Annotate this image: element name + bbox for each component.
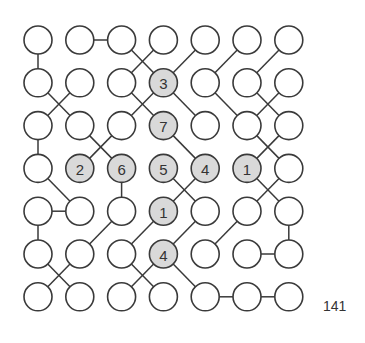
clue-number: 1 (243, 161, 251, 178)
grid-node[interactable] (24, 240, 52, 268)
node-circle[interactable] (24, 240, 52, 268)
grid-node[interactable] (233, 112, 261, 140)
grid-node[interactable] (233, 240, 261, 268)
grid-node[interactable] (275, 26, 303, 54)
node-circle[interactable] (233, 112, 261, 140)
clue-number: 1 (159, 204, 167, 221)
node-circle[interactable] (24, 154, 52, 182)
node-circle[interactable] (24, 69, 52, 97)
puzzle-number: 141 (323, 298, 346, 314)
node-circle[interactable] (108, 69, 136, 97)
clue-node[interactable]: 1 (233, 154, 261, 182)
node-circle[interactable] (191, 197, 219, 225)
node-circle[interactable] (191, 112, 219, 140)
grid-node[interactable] (66, 69, 94, 97)
grid-node[interactable] (275, 154, 303, 182)
grid-node[interactable] (191, 69, 219, 97)
grid-node[interactable] (24, 154, 52, 182)
grid-node[interactable] (66, 26, 94, 54)
grid-node[interactable] (108, 283, 136, 311)
clue-number: 7 (159, 118, 167, 135)
clue-node[interactable]: 3 (149, 69, 177, 97)
node-circle[interactable] (233, 240, 261, 268)
grid-node[interactable] (233, 197, 261, 225)
grid-node[interactable] (275, 197, 303, 225)
node-circle[interactable] (149, 283, 177, 311)
node-circle[interactable] (66, 197, 94, 225)
node-circle[interactable] (108, 240, 136, 268)
grid-node[interactable] (191, 112, 219, 140)
clue-node[interactable]: 4 (191, 154, 219, 182)
node-circle[interactable] (233, 69, 261, 97)
grid-node[interactable] (24, 283, 52, 311)
node-circle[interactable] (66, 240, 94, 268)
node-circle[interactable] (108, 112, 136, 140)
grid-node[interactable] (149, 283, 177, 311)
grid-node[interactable] (108, 112, 136, 140)
grid-node[interactable] (108, 26, 136, 54)
grid-node[interactable] (66, 283, 94, 311)
node-circle[interactable] (66, 283, 94, 311)
grid-node[interactable] (66, 240, 94, 268)
grid-node[interactable] (24, 197, 52, 225)
grid-node[interactable] (275, 69, 303, 97)
node-circle[interactable] (233, 197, 261, 225)
grid-node[interactable] (108, 69, 136, 97)
clue-node[interactable]: 5 (149, 154, 177, 182)
grid-node[interactable] (233, 69, 261, 97)
connection-line (215, 93, 237, 116)
clue-node[interactable]: 4 (149, 240, 177, 268)
grid-node[interactable] (108, 197, 136, 225)
connection-line (173, 136, 195, 159)
node-circle[interactable] (233, 283, 261, 311)
grid-node[interactable] (275, 112, 303, 140)
grid-node[interactable] (24, 69, 52, 97)
node-circle[interactable] (275, 240, 303, 268)
grid-node[interactable] (233, 283, 261, 311)
node-circle[interactable] (66, 26, 94, 54)
grid-node[interactable] (66, 112, 94, 140)
clue-node[interactable]: 1 (149, 197, 177, 225)
node-circle[interactable] (233, 26, 261, 54)
clue-number: 6 (117, 161, 125, 178)
grid-node[interactable] (275, 283, 303, 311)
grid-node[interactable] (191, 26, 219, 54)
grid-node[interactable] (149, 26, 177, 54)
node-circle[interactable] (275, 154, 303, 182)
node-circle[interactable] (275, 283, 303, 311)
clue-node[interactable]: 7 (149, 112, 177, 140)
node-circle[interactable] (66, 69, 94, 97)
node-circle[interactable] (24, 112, 52, 140)
node-circle[interactable] (24, 26, 52, 54)
node-circle[interactable] (149, 26, 177, 54)
grid-node[interactable] (191, 283, 219, 311)
grid-node[interactable] (66, 197, 94, 225)
clue-number: 5 (159, 161, 167, 178)
node-circle[interactable] (191, 69, 219, 97)
node-circle[interactable] (275, 69, 303, 97)
node-circle[interactable] (66, 112, 94, 140)
grid-node[interactable] (108, 240, 136, 268)
node-circle[interactable] (275, 112, 303, 140)
node-circle[interactable] (108, 197, 136, 225)
grid-node[interactable] (191, 197, 219, 225)
node-circle[interactable] (275, 26, 303, 54)
node-circle[interactable] (191, 26, 219, 54)
node-circle[interactable] (24, 283, 52, 311)
node-circle[interactable] (191, 283, 219, 311)
node-circle[interactable] (191, 240, 219, 268)
clue-node[interactable]: 2 (66, 154, 94, 182)
grid-node[interactable] (191, 240, 219, 268)
node-circle[interactable] (108, 283, 136, 311)
grid-node[interactable] (275, 240, 303, 268)
node-circle[interactable] (24, 197, 52, 225)
grid-node[interactable] (24, 112, 52, 140)
clue-node[interactable]: 6 (108, 154, 136, 182)
node-circle[interactable] (108, 26, 136, 54)
node-circle[interactable] (275, 197, 303, 225)
clue-number: 4 (201, 161, 209, 178)
grid-node[interactable] (24, 26, 52, 54)
connection-line (173, 264, 195, 287)
grid-node[interactable] (233, 26, 261, 54)
connection-line (90, 221, 112, 244)
